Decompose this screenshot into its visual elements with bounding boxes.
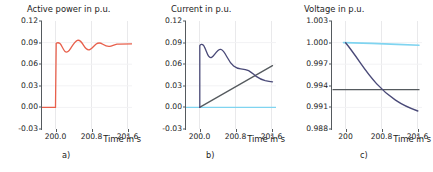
panel-b-ytick-label: 0.12	[165, 17, 186, 25]
panel-c-ytick-label: 0.991	[306, 103, 332, 111]
panel-c-curves	[332, 21, 422, 129]
panel-a-ytick-label: 0.06	[21, 60, 42, 68]
panel-a-xtick-label: 200.8	[81, 133, 103, 141]
panel-c-ytick-label: 0.997	[306, 60, 332, 68]
series-active-power	[42, 40, 132, 107]
figure-three-panel-plot: Active power in p.u. 0.12 0.09 0.06 0.03…	[0, 0, 433, 172]
panel-a-tag: a)	[62, 150, 70, 160]
panel-a-curves	[42, 21, 132, 129]
series-current-transient	[200, 44, 273, 107]
panel-c-ytick-label: 1.000	[306, 39, 332, 47]
panel-b-ytick-label: -0.03	[162, 125, 186, 133]
panel-a-xtick-label: 200.0	[45, 133, 67, 141]
panel-a-xlabel: Time in s	[103, 134, 141, 144]
panel-a-ytick-label: 0.09	[21, 39, 42, 47]
panel-c-ytick-label: 0.994	[306, 82, 332, 90]
panel-c-xlabel: Time in s	[393, 134, 431, 144]
panel-b-xtick-label: 200.8	[225, 133, 247, 141]
panel-a: Active power in p.u. 0.12 0.09 0.06 0.03…	[0, 0, 145, 172]
panel-a-plot-area: 0.12 0.09 0.06 0.03 0.00 -0.03 200.0 200…	[42, 21, 132, 129]
panel-b-xlabel: Time in s	[247, 134, 285, 144]
panel-b: Current in p.u. 0.12 0.09 0.06 0.03 0.00…	[144, 0, 289, 172]
series-current-ramp	[200, 66, 273, 108]
panel-a-ytick-label: 0.03	[21, 82, 42, 90]
panel-b-plot-area: 0.12 0.09 0.06 0.03 0.00 -0.03 200.0 200…	[186, 21, 276, 129]
panel-c: Voltage in p.u. 1.003 1.000 0.997 0.994 …	[288, 0, 433, 172]
panel-a-title: Active power in p.u.	[27, 4, 110, 14]
panel-b-ytick-label: 0.09	[165, 39, 186, 47]
panel-b-ytick-label: 0.03	[165, 82, 186, 90]
panel-c-title: Voltage in p.u.	[304, 4, 364, 14]
panel-c-xtick-label: 200.8	[371, 133, 393, 141]
panel-a-ytick-label: 0.12	[21, 17, 42, 25]
panel-c-xtick-label: 200	[338, 133, 353, 141]
panel-a-ytick-label: 0.00	[21, 103, 42, 111]
panel-c-plot-area: 1.003 1.000 0.997 0.994 0.991 0.988 200 …	[332, 21, 422, 129]
panel-b-curves	[186, 21, 276, 129]
panel-b-ytick-label: 0.00	[165, 103, 186, 111]
panel-b-ytick-label: 0.06	[165, 60, 186, 68]
panel-b-tag: b)	[206, 150, 214, 160]
panel-a-ytick-label: -0.03	[18, 125, 42, 133]
panel-b-title: Current in p.u.	[171, 4, 231, 14]
panel-c-ytick-label: 0.988	[306, 125, 332, 133]
panel-b-xtick-label: 200.0	[189, 133, 211, 141]
panel-c-ytick-label: 1.003	[306, 17, 332, 25]
panel-c-tag: c)	[360, 150, 368, 160]
panel-c-gridlines	[332, 21, 422, 129]
